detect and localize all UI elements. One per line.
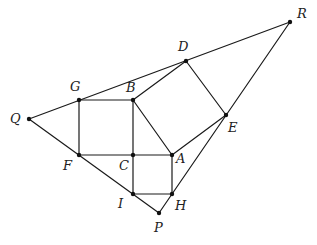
point-p: [157, 211, 161, 215]
label-d: D: [177, 39, 189, 54]
point-b: [131, 98, 135, 102]
label-c: C: [119, 158, 129, 173]
point-c: [131, 153, 135, 157]
line-segments: [29, 22, 290, 213]
geometry-diagram: RDGBQEFCAIHP: [0, 0, 317, 245]
label-b: B: [125, 80, 136, 95]
point-r: [288, 20, 292, 24]
point-h: [170, 192, 174, 196]
point-g: [77, 98, 81, 102]
segment-ea: [172, 115, 226, 155]
point-e: [224, 113, 228, 117]
point-f: [77, 153, 81, 157]
segment-ab: [133, 100, 172, 155]
vertex-points: [27, 20, 292, 215]
label-f: F: [62, 158, 73, 173]
point-d: [184, 59, 188, 63]
segment-de: [186, 61, 226, 115]
label-a: A: [175, 151, 185, 166]
label-p: P: [153, 220, 163, 235]
label-r: R: [296, 6, 307, 21]
vertex-labels: RDGBQEFCAIHP: [10, 6, 307, 235]
label-i: I: [117, 196, 124, 211]
segment-bd: [133, 61, 186, 100]
point-i: [131, 192, 135, 196]
point-a: [170, 153, 174, 157]
triangle-squares-figure: RDGBQEFCAIHP: [0, 0, 317, 245]
label-e: E: [227, 120, 238, 135]
segment-qr: [29, 22, 290, 119]
label-h: H: [174, 198, 187, 213]
segment-qp: [29, 119, 159, 213]
label-g: G: [70, 79, 80, 94]
point-q: [27, 117, 31, 121]
label-q: Q: [10, 111, 21, 126]
